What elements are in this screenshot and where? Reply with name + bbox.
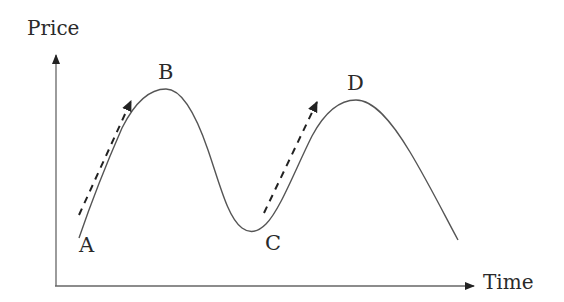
point-label-d: D: [347, 73, 364, 94]
y-axis-label: Price: [27, 18, 79, 38]
trend-arrow-c-d: [264, 102, 317, 213]
trend-arrow-a-b: [79, 101, 131, 215]
x-axis-label: Time: [483, 272, 534, 292]
point-label-a: A: [79, 235, 94, 256]
price-time-diagram: Price Time A B C D: [0, 0, 564, 302]
price-curve: [79, 89, 458, 240]
point-label-c: C: [265, 233, 281, 254]
point-label-b: B: [158, 62, 173, 83]
